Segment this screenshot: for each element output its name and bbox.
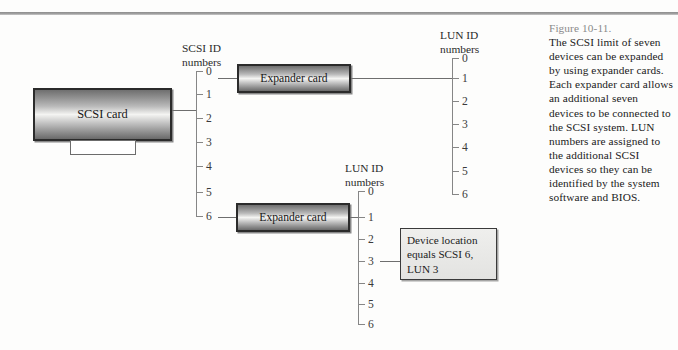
lun-id-bus-top-title: LUN ID numbers bbox=[440, 29, 479, 56]
lun-id-bottom-tick-label: 3 bbox=[368, 256, 374, 268]
scsi-id-tick-label: 5 bbox=[206, 187, 212, 199]
wire-scsi-id-0-to-expander-top bbox=[218, 78, 238, 79]
scsi-id-bus-title: SCSI ID numbers bbox=[182, 42, 221, 69]
scsi-id-tick bbox=[196, 166, 203, 167]
lun-id-bottom-tick bbox=[358, 324, 365, 325]
lun-id-top-tick-label: 4 bbox=[462, 142, 468, 154]
lun-id-bottom-tick-label: 6 bbox=[368, 319, 374, 331]
lun-id-bus-top-title-line2: numbers bbox=[440, 43, 479, 55]
lun-id-top-tick-label: 5 bbox=[462, 166, 468, 178]
scsi-id-bus-spine bbox=[196, 71, 197, 217]
scsi-id-tick-label: 4 bbox=[206, 161, 212, 173]
wire-lun-3-to-device-box bbox=[380, 261, 400, 262]
lun-id-bottom-tick bbox=[358, 191, 365, 192]
lun-id-bus-bottom-title-line1: LUN ID bbox=[345, 162, 383, 174]
wire-scsi-card-to-bus bbox=[172, 110, 197, 111]
lun-id-bottom-tick-label: 5 bbox=[368, 299, 374, 311]
scsi-id-tick bbox=[196, 118, 203, 119]
figure-number: Figure 10-11. bbox=[549, 21, 673, 35]
wire-scsi-id-6-to-expander-bottom bbox=[218, 217, 237, 218]
expander-card-top-label: Expander card bbox=[260, 72, 327, 85]
lun-id-top-tick bbox=[452, 147, 459, 148]
scsi-id-tick bbox=[196, 71, 203, 72]
scsi-id-tick-label: 6 bbox=[206, 211, 212, 223]
figure-page: Figure 10-11. The SCSI limit of seven de… bbox=[0, 0, 678, 350]
lun-id-bus-bottom-title-line2: numbers bbox=[345, 176, 384, 188]
lun-id-bottom-tick bbox=[358, 217, 365, 218]
wire-expander-top-to-lun-bus bbox=[351, 78, 453, 79]
lun-id-bus-top-title-line1: LUN ID bbox=[440, 29, 478, 41]
figure-caption: Figure 10-11. The SCSI limit of seven de… bbox=[549, 21, 673, 204]
lun-id-top-tick-label: 0 bbox=[462, 53, 468, 65]
lun-id-top-tick bbox=[452, 124, 459, 125]
scsi-id-bus-title-line2: numbers bbox=[182, 56, 221, 68]
lun-id-bottom-tick-label: 1 bbox=[368, 212, 374, 224]
lun-id-bottom-tick-label: 0 bbox=[368, 186, 374, 198]
scsi-id-bus-title-line1: SCSI ID bbox=[182, 42, 221, 54]
lun-id-top-tick-label: 6 bbox=[462, 189, 468, 201]
wire-expander-bottom-to-lun-bus bbox=[350, 217, 358, 218]
lun-id-top-tick-label: 1 bbox=[462, 73, 468, 85]
scsi-id-tick-label: 0 bbox=[206, 66, 212, 78]
figure-caption-text: The SCSI limit of seven devices can be e… bbox=[549, 36, 673, 203]
expander-card-bottom: Expander card bbox=[236, 203, 350, 232]
lun-id-top-tick-label: 2 bbox=[462, 96, 468, 108]
lun-id-top-tick bbox=[452, 78, 459, 79]
lun-id-top-tick bbox=[452, 194, 459, 195]
lun-id-bottom-tick bbox=[358, 261, 365, 262]
scsi-id-tick bbox=[196, 192, 203, 193]
header-divider bbox=[0, 12, 678, 15]
lun-id-top-tick bbox=[452, 58, 459, 59]
lun-id-bus-bottom-title: LUN ID numbers bbox=[345, 162, 384, 189]
lun-id-top-tick bbox=[452, 101, 459, 102]
scsi-id-tick bbox=[196, 142, 203, 143]
device-location-box: Device location equals SCSI 6, LUN 3 bbox=[400, 228, 497, 280]
lun-id-bottom-tick-label: 4 bbox=[368, 278, 374, 290]
device-location-label: Device location equals SCSI 6, LUN 3 bbox=[407, 234, 478, 275]
lun-id-bottom-tick bbox=[358, 239, 365, 240]
expander-card-bottom-label: Expander card bbox=[259, 211, 326, 224]
scsi-id-tick bbox=[196, 94, 203, 95]
lun-id-top-tick bbox=[452, 171, 459, 172]
lun-id-top-tick-label: 3 bbox=[462, 119, 468, 131]
scsi-id-tick-label: 1 bbox=[206, 89, 212, 101]
scsi-id-tick bbox=[196, 216, 203, 217]
scsi-card-bracket bbox=[70, 140, 136, 155]
scsi-id-tick-label: 2 bbox=[206, 113, 212, 125]
expander-card-top: Expander card bbox=[237, 64, 351, 93]
lun-id-bottom-tick bbox=[358, 304, 365, 305]
scsi-card: SCSI card bbox=[33, 88, 172, 141]
lun-id-bottom-tick-label: 2 bbox=[368, 234, 374, 246]
lun-id-bottom-tick bbox=[358, 283, 365, 284]
scsi-id-tick-label: 3 bbox=[206, 137, 212, 149]
scsi-card-label: SCSI card bbox=[77, 107, 128, 122]
